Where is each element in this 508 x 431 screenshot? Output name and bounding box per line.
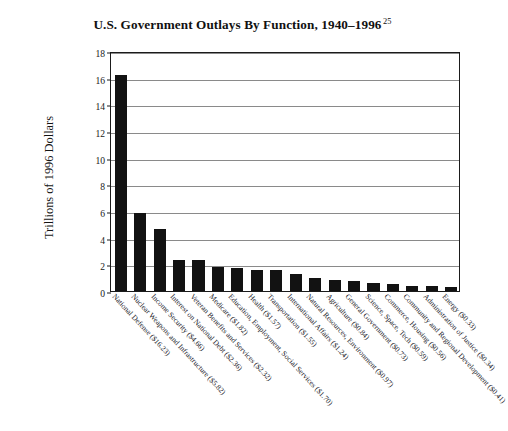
- bar: [134, 213, 146, 291]
- bar: [270, 270, 282, 291]
- bar: [231, 268, 243, 291]
- y-tick-label: 4: [100, 234, 105, 245]
- chart-title: U.S. Government Outlays By Function, 194…: [0, 17, 485, 33]
- bar: [251, 270, 263, 291]
- x-axis-labels-group: National Defense ($16.23)Nuclear Weapons…: [110, 292, 470, 431]
- bar: [212, 267, 224, 291]
- y-axis-title: Trillions of 1996 Dollars: [42, 78, 57, 278]
- bar: [426, 286, 438, 291]
- y-tick-label: 6: [100, 208, 105, 219]
- bar: [329, 280, 341, 291]
- bar: [154, 229, 166, 291]
- y-tick-label: 2: [100, 261, 105, 272]
- bar: [387, 284, 399, 291]
- y-tick-label: 8: [100, 181, 105, 192]
- bar: [115, 75, 127, 291]
- bar: [290, 274, 302, 291]
- y-tick-label: 0: [100, 288, 105, 299]
- bar: [406, 286, 418, 291]
- bars-group: [111, 53, 459, 291]
- chart-title-footnote-marker: 25: [383, 17, 392, 26]
- bar: [367, 283, 379, 291]
- bar: [348, 281, 360, 291]
- y-tick-label: 14: [95, 101, 105, 112]
- chart-title-text: U.S. Government Outlays By Function, 194…: [93, 17, 381, 32]
- bar: [192, 260, 204, 291]
- y-tick-label: 18: [95, 48, 105, 59]
- y-tick-label: 10: [95, 154, 105, 165]
- y-tick-label: 12: [95, 128, 105, 139]
- y-tick-label: 16: [95, 74, 105, 85]
- bar: [173, 260, 185, 291]
- bar: [309, 278, 321, 291]
- bar: [445, 287, 457, 291]
- plot-area: 024681012141618: [110, 52, 460, 292]
